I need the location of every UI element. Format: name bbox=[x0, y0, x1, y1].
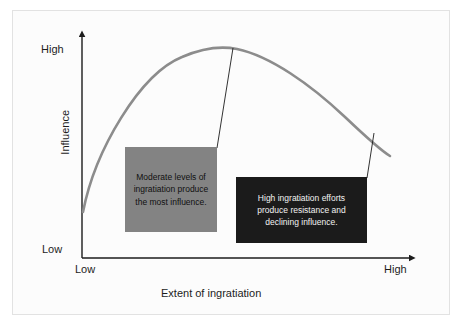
x-axis-low-tick-label: Low bbox=[75, 263, 95, 276]
callout-moderate-ingratiation: Moderate levels of ingratiation produce … bbox=[125, 147, 217, 232]
callout-moderate-text: Moderate levels of ingratiation produce … bbox=[131, 171, 211, 207]
ingratiation-influence-figure: High Low Low High Extent of ingratiation… bbox=[0, 0, 462, 336]
callout-high-ingratiation: High ingratiation efforts produce resist… bbox=[236, 177, 367, 243]
y-axis-high-tick-label: High bbox=[41, 43, 64, 56]
x-axis-title: Extent of ingratiation bbox=[161, 287, 261, 300]
leader-line-moderate bbox=[217, 48, 233, 148]
x-axis-high-tick-label: High bbox=[384, 263, 407, 276]
callout-high-text: High ingratiation efforts produce resist… bbox=[242, 192, 361, 228]
y-axis-title: Influence bbox=[59, 92, 72, 172]
y-axis-low-tick-label: Low bbox=[42, 243, 62, 256]
